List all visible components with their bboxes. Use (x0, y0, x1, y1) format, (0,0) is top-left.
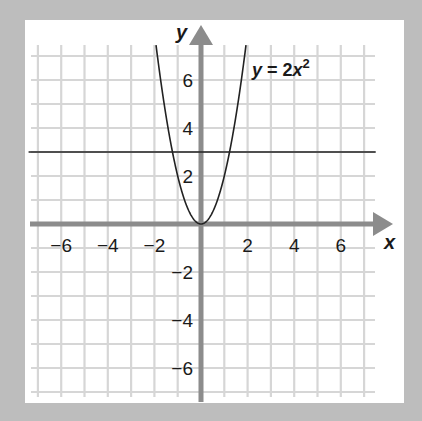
x-tick-label: 4 (289, 235, 300, 256)
x-tick-label: 6 (336, 235, 347, 256)
x-tick-label: −2 (144, 235, 166, 256)
y-tick-label: 2 (182, 166, 193, 187)
y-axis-arrow-icon (189, 25, 213, 45)
y-axis-label: y (175, 21, 188, 43)
x-tick-label: 2 (242, 235, 253, 256)
chart-frame: −6−4−2246−6−4−2246xyy = 2x2 (0, 0, 422, 421)
x-tick-label: −4 (97, 235, 119, 256)
y-tick-label: −2 (171, 262, 193, 283)
y-tick-label: 4 (182, 118, 193, 139)
y-tick-label: −6 (171, 358, 193, 379)
x-axis-label: x (383, 231, 396, 253)
y-tick-label: −4 (171, 310, 193, 331)
equation-label: y = 2x2 (251, 56, 310, 80)
coordinate-plane: −6−4−2246−6−4−2246xyy = 2x2 (0, 0, 422, 421)
x-tick-label: −6 (50, 235, 72, 256)
y-tick-label: 6 (182, 70, 193, 91)
